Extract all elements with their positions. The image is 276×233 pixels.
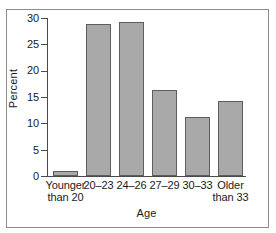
bar-30-33 bbox=[185, 117, 210, 176]
bar-24-26 bbox=[119, 22, 144, 176]
bar-27-29 bbox=[152, 90, 177, 176]
figure: 30 25 20 15 10 5 0 Percent Younger than … bbox=[0, 0, 276, 233]
y-axis-tick-labels: 30 25 20 15 10 5 0 bbox=[0, 0, 39, 233]
bar-series bbox=[47, 18, 246, 176]
y-tick-label: 30 bbox=[3, 13, 39, 24]
y-axis-title: Percent bbox=[8, 54, 19, 124]
x-axis-title: Age bbox=[47, 207, 246, 219]
x-tick-label-line1: Older bbox=[217, 179, 243, 191]
x-axis-tick-labels: Younger than 20 20–23 24–26 27–29 30–33 … bbox=[47, 179, 246, 209]
bar-older-than-33 bbox=[218, 101, 243, 176]
bar-20-23 bbox=[86, 24, 111, 176]
y-tick-label: 0 bbox=[3, 171, 39, 182]
bar-younger-than-20 bbox=[53, 171, 78, 176]
y-tick-label: 5 bbox=[3, 145, 39, 156]
x-tick-label-older-than-33: Older than 33 bbox=[202, 179, 259, 203]
x-tick-label-line2: than 20 bbox=[37, 191, 94, 203]
x-tick-label-line2: than 33 bbox=[202, 191, 259, 203]
y-tick-label: 25 bbox=[3, 39, 39, 50]
x-axis-line bbox=[47, 176, 246, 177]
